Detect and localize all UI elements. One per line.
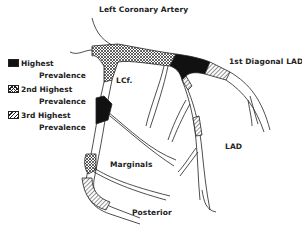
proximal-lad-highest [170,54,210,80]
label-marginals: Marginals [110,160,153,169]
legend-label: 3rd Highest [21,111,71,120]
lcf-crosshatch [85,154,96,174]
hatch-swatch-icon [8,111,19,119]
diagonal-hatched [205,62,230,80]
legend-sublabel: Prevalence [21,122,86,134]
aorta-outline [92,18,118,48]
legend-item-highest: HighestPrevalence [8,58,86,82]
lad-hatched-2 [193,116,202,136]
legend-item-third: 3rd HighestPrevalence [8,110,86,134]
left-origin-stub [70,50,92,53]
legend-item-second: 2nd HighestPrevalence [8,84,86,108]
legend-sublabel: Prevalence [21,96,86,108]
label-lcf: LCf. [116,76,132,85]
solid-swatch-icon [8,59,19,67]
lcf-hatched [82,178,110,210]
crosshatch-swatch-icon [8,85,19,93]
diagonal-subbranch [248,96,258,126]
legend-sublabel: Prevalence [21,70,86,82]
marginal-branch-2 [94,168,170,200]
label-lad: LAD [225,142,242,151]
diagram-title: Left Coronary Artery [99,5,188,14]
label-first-diagonal-lad: 1st Diagonal LAD [229,57,302,66]
lad-main [182,80,210,210]
left-main-segment [92,44,176,82]
marginal-branch-1 [108,112,176,166]
legend-label: Highest [21,59,54,68]
inner-branch [146,66,168,128]
lcf-highest [96,96,112,124]
legend-label: 2nd Highest [21,85,72,94]
lad-side-branches [168,100,216,212]
label-posterior: Posterior [132,208,172,217]
